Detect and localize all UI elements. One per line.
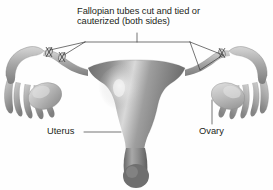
reproductive-anatomy-illustration: [0, 0, 273, 190]
ovary-left: [25, 79, 65, 113]
left-adnexa: [4, 47, 88, 120]
cervix: [123, 148, 149, 188]
leader-tubes-arm-right-outer: [190, 42, 223, 55]
right-adnexa: [185, 47, 269, 120]
fallopian-tubes-caption: Fallopian tubes cut and tied or cauteriz…: [77, 6, 200, 26]
ovary-label: Ovary: [199, 126, 224, 136]
leader-tubes-arm-left-inner: [64, 42, 85, 55]
fallopian-tube-right-distal: [229, 47, 267, 84]
ovary-right: [208, 79, 248, 113]
fallopian-tubes-caption-line1: Fallopian tubes cut and tied or: [77, 6, 200, 16]
fallopian-tube-left-distal: [6, 47, 44, 84]
anatomical-figure: Fallopian tubes cut and tied or cauteriz…: [0, 0, 273, 190]
leader-tubes-arm-right-down: [190, 42, 200, 70]
uterus-label: Uterus: [47, 126, 74, 136]
leader-tubes-arm-left-outer: [50, 42, 85, 50]
fallopian-tubes-caption-line2: cauterized (both sides): [77, 16, 200, 26]
